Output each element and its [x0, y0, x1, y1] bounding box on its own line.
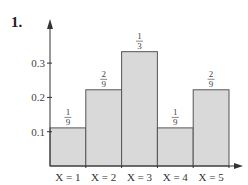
x-axis-arrow-icon — [234, 163, 243, 169]
bar — [157, 128, 193, 166]
bar-value-numerator: 2 — [101, 69, 106, 79]
bar — [50, 128, 86, 166]
bar-value-denominator: 9 — [101, 79, 106, 89]
y-tick-label: 0.2 — [31, 91, 45, 103]
bar-value-numerator: 2 — [209, 69, 214, 79]
bar — [122, 52, 158, 166]
bar-value-numerator: 1 — [66, 107, 71, 117]
x-category-label: X = 5 — [199, 171, 225, 183]
x-category-label: X = 2 — [91, 171, 116, 183]
probability-bar-chart: 19X = 129X = 213X = 319X = 429X = 50.10.… — [0, 0, 248, 185]
y-axis-arrow-icon — [47, 19, 53, 29]
y-tick-label: 0.1 — [31, 126, 45, 138]
bar — [193, 90, 229, 166]
x-category-label: X = 3 — [127, 171, 153, 183]
bar-value-denominator: 3 — [137, 41, 142, 51]
bar — [86, 90, 122, 166]
x-category-label: X = 4 — [163, 171, 189, 183]
x-category-label: X = 1 — [55, 171, 80, 183]
bar-value-numerator: 1 — [173, 107, 178, 117]
bar-value-denominator: 9 — [173, 117, 178, 127]
bar-value-numerator: 1 — [137, 31, 142, 41]
bar-value-denominator: 9 — [209, 79, 214, 89]
y-tick-label: 0.3 — [31, 57, 45, 69]
bar-value-denominator: 9 — [66, 117, 71, 127]
